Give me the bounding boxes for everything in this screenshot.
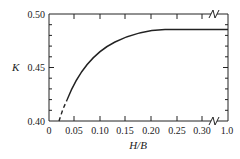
- x-tick-label: 0.05: [65, 125, 83, 136]
- x-tick-label: 0.30: [193, 125, 211, 136]
- y-tick-label: 0.45: [28, 62, 46, 73]
- chart: 0.50 0.45 0.40 K 0 0.05 0.10 0.15 0.20 0…: [0, 0, 240, 159]
- axis-break-icon: [209, 10, 219, 125]
- x-tick-label: 0: [47, 125, 52, 136]
- x-tick-label: 0.15: [116, 125, 134, 136]
- curve-solid-segment: [67, 30, 228, 101]
- x-tick-label: 0.20: [142, 125, 160, 136]
- y-axis-label: K: [11, 61, 20, 73]
- y-ticks: [49, 25, 228, 111]
- y-tick-label: 0.50: [28, 9, 46, 20]
- x-tick-label: 0.10: [91, 125, 109, 136]
- curve-dashed-segment: [59, 100, 67, 121]
- x-axis-label: H/B: [128, 139, 147, 151]
- x-tick-label: 0.25: [168, 125, 186, 136]
- x-tick-label: 1.0: [221, 125, 234, 136]
- y-tick-label: 0.40: [28, 116, 46, 127]
